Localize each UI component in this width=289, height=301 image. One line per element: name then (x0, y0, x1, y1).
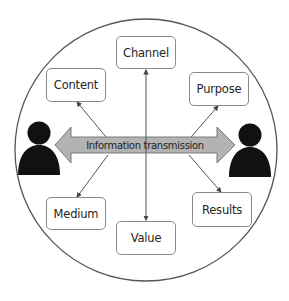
connector-results (189, 155, 221, 192)
node-channel: Channel (116, 36, 176, 69)
node-value: Value (116, 221, 176, 255)
arrow-label: Information transmission (74, 137, 216, 153)
connector-medium (77, 155, 108, 197)
sender-person-icon (18, 122, 60, 176)
connector-content (77, 102, 106, 137)
node-content: Content (46, 68, 106, 102)
receiver-person-icon (229, 124, 271, 178)
node-medium: Medium (46, 197, 106, 230)
connector-purpose (191, 106, 218, 137)
diagram-canvas: Information transmission Channel Content… (0, 0, 289, 301)
node-purpose: Purpose (189, 72, 249, 106)
node-results: Results (192, 192, 252, 227)
